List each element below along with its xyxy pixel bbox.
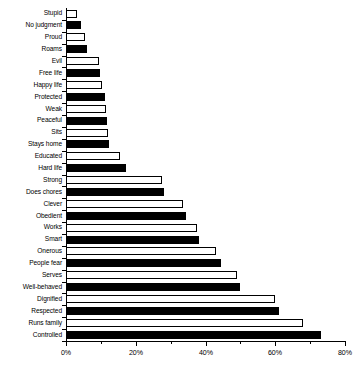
category-label: Serves <box>5 271 62 279</box>
bar <box>66 105 106 113</box>
bar <box>66 200 183 208</box>
value-axis-tick-label: 0% <box>61 348 71 357</box>
category-label: Runs family <box>5 319 62 327</box>
value-axis-tick-major <box>275 341 276 346</box>
bar <box>66 129 108 137</box>
category-label: Weak <box>5 105 62 113</box>
category-label: Hard life <box>5 164 62 172</box>
bar <box>66 212 186 220</box>
value-axis-tick-label: 40% <box>198 348 212 357</box>
category-label: Evil <box>5 57 62 65</box>
category-label: Dignified <box>5 295 62 303</box>
value-axis-tick-minor <box>310 341 311 344</box>
bar-chart: StupidNo judgmentProudRoamsEvilFree life… <box>0 0 361 374</box>
bar <box>66 271 237 279</box>
category-label: No judgment <box>5 21 62 29</box>
value-axis-tick-minor <box>171 341 172 344</box>
category-label: Controlled <box>5 331 62 339</box>
value-axis-tick-label: 20% <box>129 348 143 357</box>
bar <box>66 295 275 303</box>
category-label: Strong <box>5 176 62 184</box>
bar <box>66 247 216 255</box>
bar <box>66 283 240 291</box>
category-label: Proud <box>5 33 62 41</box>
bar <box>66 307 279 315</box>
category-label: Well-behaved <box>5 283 62 291</box>
category-label: Free life <box>5 69 62 77</box>
value-axis-tick-minor <box>101 341 102 344</box>
category-label: Onerous <box>5 247 62 255</box>
value-axis-tick-label: 80% <box>338 348 352 357</box>
value-axis-tick-major <box>136 341 137 346</box>
value-axis-tick-minor <box>240 341 241 344</box>
category-label: Stays home <box>5 140 62 148</box>
category-label: Happy life <box>5 81 62 89</box>
category-label: Works <box>5 223 62 231</box>
category-label: Smart <box>5 235 62 243</box>
category-label: Roams <box>5 45 62 53</box>
category-label: Clever <box>5 200 62 208</box>
bar <box>66 21 81 29</box>
value-axis-line: 0%20%40%60%80% <box>66 341 346 342</box>
category-label: Peaceful <box>5 116 62 124</box>
bar <box>66 319 303 327</box>
category-label: Stupid <box>5 9 62 17</box>
category-label: Sits <box>5 128 62 136</box>
value-axis-tick-major <box>345 341 346 346</box>
category-label: Obedient <box>5 212 62 220</box>
bar <box>66 33 85 41</box>
bar <box>66 57 99 65</box>
bar <box>66 81 102 89</box>
category-label: People fear <box>5 259 62 267</box>
bar <box>66 164 126 172</box>
bar <box>66 45 87 53</box>
category-label: Educated <box>5 152 62 160</box>
category-axis-labels: StupidNo judgmentProudRoamsEvilFree life… <box>0 8 62 341</box>
bar <box>66 69 100 77</box>
plot-area <box>66 8 345 341</box>
bar <box>66 331 321 339</box>
bar <box>66 259 221 267</box>
bar <box>66 117 107 125</box>
bar <box>66 152 120 160</box>
bar <box>66 188 164 196</box>
category-label: Does chores <box>5 188 62 196</box>
category-label: Protected <box>5 93 62 101</box>
bar <box>66 176 162 184</box>
value-axis-tick-label: 60% <box>268 348 282 357</box>
bar <box>66 224 197 232</box>
bar <box>66 93 105 101</box>
bar <box>66 10 77 18</box>
value-axis-tick-major <box>66 341 67 346</box>
bar <box>66 236 199 244</box>
value-axis-tick-major <box>206 341 207 346</box>
bar <box>66 140 109 148</box>
category-label: Respected <box>5 307 62 315</box>
